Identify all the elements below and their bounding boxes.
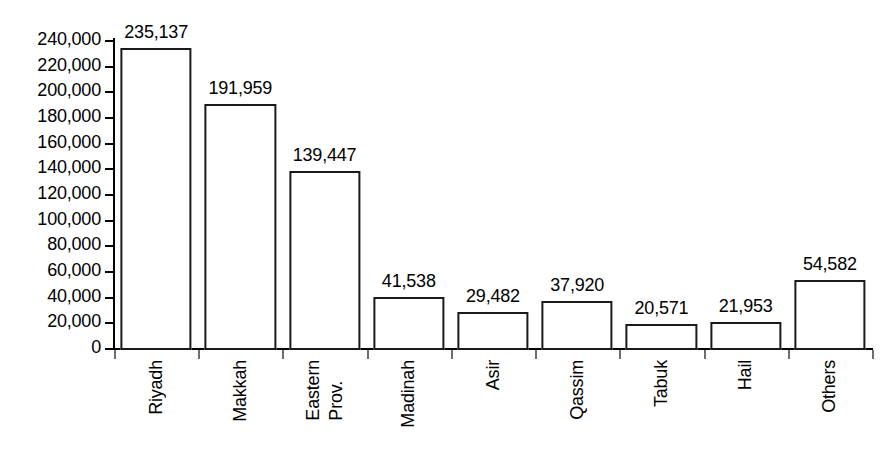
bar-value-label: 29,482 [466, 286, 520, 306]
y-axis-tick-mark [105, 66, 114, 68]
x-axis-category-label-line: Makkah [230, 360, 251, 422]
y-axis-tick-label: 80,000 [47, 234, 101, 254]
y-axis-tick-mark [105, 220, 114, 222]
bar[interactable] [373, 297, 444, 350]
y-axis-tick-label: 200,000 [37, 80, 101, 100]
y-axis-tick-label: 100,000 [37, 209, 101, 229]
x-axis-category-label-line: Prov. [326, 360, 347, 421]
x-axis-tick-mark [198, 350, 200, 359]
bar[interactable] [457, 312, 528, 350]
x-axis-tick-mark [282, 350, 284, 359]
x-axis-tick-mark [367, 350, 369, 359]
y-axis-tick-mark [105, 168, 114, 170]
bar[interactable] [121, 48, 192, 350]
y-axis-tick-label: 160,000 [37, 132, 101, 152]
bar[interactable] [794, 280, 865, 350]
bar-value-label: 20,571 [635, 298, 689, 318]
y-axis-tick-label: 140,000 [37, 157, 101, 177]
x-axis-category-label-line: Riyadh [146, 360, 167, 415]
x-axis-category-label-line: Qassim [567, 360, 588, 420]
x-axis-category-label-line: Others [819, 360, 840, 413]
x-axis-category-label-line: Eastern [303, 360, 324, 421]
y-axis-tick-label: 180,000 [37, 106, 101, 126]
y-axis-tick-label: 220,000 [37, 55, 101, 75]
y-axis-tick-label: 20,000 [47, 311, 101, 331]
bar-chart: 240,000220,000200,000180,000160,000140,0… [0, 0, 895, 471]
x-axis-tick-mark [788, 350, 790, 359]
bar-value-label: 41,538 [382, 271, 436, 291]
bar-group: 54,582 [788, 38, 872, 350]
y-axis-tick-mark [105, 245, 114, 247]
bar-value-label: 191,959 [208, 78, 272, 98]
y-axis-tick-mark [105, 322, 114, 324]
y-axis-tick-label: 0 [91, 337, 101, 357]
bar[interactable] [710, 322, 781, 350]
y-axis-tick-mark [105, 143, 114, 145]
y-axis-tick-mark [105, 91, 114, 93]
bar-group: 139,447 [282, 38, 366, 350]
y-axis-tick-label: 40,000 [47, 286, 101, 306]
bar[interactable] [542, 301, 613, 350]
bar-group: 41,538 [367, 38, 451, 350]
bar[interactable] [626, 324, 697, 350]
bar-value-label: 21,953 [719, 296, 773, 316]
bar[interactable] [205, 104, 276, 350]
x-axis-category-label-line: Madinah [398, 360, 419, 428]
x-axis-tick-mark [619, 350, 621, 359]
bar-group: 37,920 [535, 38, 619, 350]
y-axis-tick-label: 240,000 [37, 29, 101, 49]
y-axis-tick-mark [105, 194, 114, 196]
y-axis-tick-mark [105, 117, 114, 119]
x-axis-category-label-line: Asir [483, 360, 504, 390]
bar-group: 21,953 [704, 38, 788, 350]
bar-group: 191,959 [198, 38, 282, 350]
y-axis-tick-mark [105, 40, 114, 42]
x-axis-tick-mark [114, 350, 116, 359]
y-axis-tick-label: 120,000 [37, 183, 101, 203]
bar-value-label: 139,447 [293, 145, 357, 165]
y-axis-tick-label: 60,000 [47, 260, 101, 280]
bar-value-label: 235,137 [124, 22, 188, 42]
bar-group: 29,482 [451, 38, 535, 350]
x-axis-tick-mark [872, 350, 874, 359]
x-axis-category-label-line: Hail [735, 360, 756, 390]
bar[interactable] [289, 171, 360, 350]
x-axis-tick-mark [535, 350, 537, 359]
bar-group: 20,571 [619, 38, 703, 350]
x-axis-tick-mark [704, 350, 706, 359]
x-axis-tick-mark [451, 350, 453, 359]
x-axis-category-label-line: Tabuk [651, 360, 672, 407]
bar-value-label: 54,582 [803, 254, 857, 274]
plot-area: 235,137191,959139,44741,53829,48237,9202… [114, 38, 872, 350]
y-axis-tick-mark [105, 271, 114, 273]
y-axis-tick-mark [105, 297, 114, 299]
bar-value-label: 37,920 [550, 275, 604, 295]
bar-group: 235,137 [114, 38, 198, 350]
